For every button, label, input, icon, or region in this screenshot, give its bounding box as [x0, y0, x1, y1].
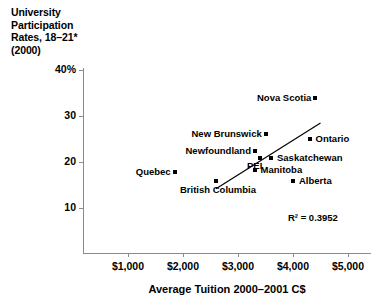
data-point-marker	[264, 132, 268, 136]
y-tick-30	[79, 116, 83, 117]
plot-area: 40% 30 20 10 $1,000 $2,000 $3,000 $4,000…	[0, 0, 388, 304]
x-axis-line	[83, 253, 371, 254]
y-tick-20	[79, 162, 83, 163]
data-point-label: New Brunswick	[192, 129, 262, 139]
y-axis-line	[83, 68, 84, 254]
data-point-marker	[269, 156, 273, 160]
y-tick-label-10: 10	[36, 202, 76, 213]
data-point-marker	[291, 179, 295, 183]
data-point-marker	[253, 149, 257, 153]
x-axis-title: Average Tuition 2000–2001 C$	[83, 283, 371, 295]
data-point-marker	[214, 179, 218, 183]
data-point-label: Newfoundland	[186, 146, 251, 156]
x-tick-4000	[293, 253, 294, 257]
y-tick-10	[79, 208, 83, 209]
data-point-label: Ontario	[316, 134, 350, 144]
data-point-marker	[313, 96, 317, 100]
data-point-marker	[308, 137, 312, 141]
data-point-label: Nova Scotia	[257, 93, 311, 103]
data-point-marker	[173, 170, 177, 174]
chart-page: University Participation Rates, 18–21* (…	[0, 0, 388, 304]
x-tick-5000	[348, 253, 349, 257]
x-tick-label-1000: $1,000	[98, 261, 158, 272]
y-tick-label-20: 20	[36, 156, 76, 167]
data-point-label: Quebec	[136, 167, 171, 177]
data-point-label: Saskatchewan	[277, 153, 342, 163]
x-tick-label-3000: $3,000	[208, 261, 268, 272]
data-point-label: Alberta	[299, 176, 332, 186]
data-point-marker	[253, 168, 257, 172]
y-tick-label-40: 40%	[36, 64, 76, 75]
data-point-label: British Columbia	[180, 185, 256, 195]
y-tick-40	[79, 70, 83, 71]
x-tick-2000	[183, 253, 184, 257]
data-point-label: Manitoba	[261, 165, 303, 175]
r-squared-annotation: R² = 0.3952	[288, 212, 338, 223]
x-tick-label-2000: $2,000	[153, 261, 213, 272]
x-tick-label-5000: $5,000	[318, 261, 378, 272]
x-tick-3000	[238, 253, 239, 257]
y-tick-label-30: 30	[36, 110, 76, 121]
x-tick-label-4000: $4,000	[263, 261, 323, 272]
x-tick-1000	[128, 253, 129, 257]
